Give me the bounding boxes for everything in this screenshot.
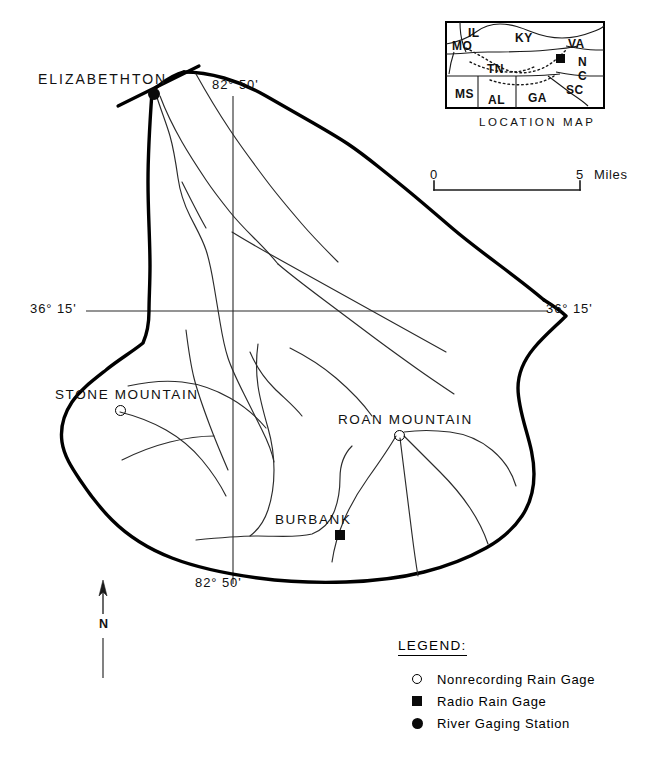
legend-item-river-gaging-station: River Gaging Station	[406, 712, 595, 734]
inset-state-label-mo: MO	[452, 40, 472, 52]
inset-state-label-ky: KY	[515, 32, 533, 44]
river-gaging-station-marker-elizabethton[interactable]	[148, 88, 160, 100]
nonrecording-rain-gage-marker-roan-mountain[interactable]	[394, 430, 405, 441]
coordinate-label-longitude-bottom: 82° 50'	[195, 576, 242, 589]
stream-roan-east-fork	[404, 436, 488, 544]
filled-square-icon	[406, 696, 428, 706]
stream-stone-mountain-lower	[122, 436, 214, 460]
stream-tributary-northeast	[278, 264, 454, 394]
nonrecording-rain-gage-marker-stone-mountain[interactable]	[115, 405, 126, 416]
legend-item-nonrecording-rain-gage: Nonrecording Rain Gage	[406, 668, 595, 690]
stream-branch-mid-east	[232, 232, 446, 352]
legend-item-label: Radio Rain Gage	[437, 694, 546, 709]
inset-title: LOCATION MAP	[479, 117, 595, 129]
coordinate-label-latitude-right: 36° 15'	[546, 302, 593, 315]
radio-rain-gage-marker-burbank[interactable]	[335, 530, 345, 540]
stream-network	[120, 74, 516, 576]
scale-bar-units-label: Miles	[594, 168, 628, 181]
legend-item-label: Nonrecording Rain Gage	[437, 672, 595, 687]
inset-state-label-il: IL	[468, 27, 480, 39]
city-label-elizabethton: ELIZABETHTON	[38, 72, 167, 86]
coordinate-label-longitude-top: 82° 50'	[212, 78, 259, 91]
place-label-stone-mountain: STONE MOUNTAIN	[55, 388, 199, 402]
inset-state-label-sc: SC	[566, 84, 584, 96]
watershed-map-page: ELIZABETHTON STONE MOUNTAIN ROAN MOUNTAI…	[0, 0, 659, 757]
place-label-burbank: BURBANK	[275, 513, 352, 527]
watershed-boundary-path	[61, 92, 566, 582]
study-area-marker-icon	[556, 54, 565, 63]
stream-feeder-upper-northeast	[196, 74, 338, 262]
watershed-boundary	[61, 72, 566, 582]
stream-roan-northeast-fork	[404, 431, 516, 487]
filled-circle-icon	[406, 718, 428, 729]
scale-bar-start-label: 0	[430, 168, 438, 181]
legend-title: LEGEND:	[398, 638, 467, 656]
inset-state-label-ga: GA	[528, 92, 547, 104]
legend: LEGEND: Nonrecording Rain Gage Radio Rai…	[398, 636, 595, 734]
north-arrow-label: N	[99, 618, 109, 631]
scale-bar	[434, 181, 580, 190]
stream-northeast-arc	[290, 348, 372, 416]
inset-state-label-nc-c: C	[578, 70, 587, 82]
inset-state-label-tn: TN	[487, 63, 504, 75]
inset-state-label-ms: MS	[455, 88, 474, 100]
stream-roan-center-fork	[400, 438, 418, 576]
legend-item-label: River Gaging Station	[437, 716, 570, 731]
stream-main-stem	[156, 94, 274, 462]
inset-state-label-nc-n: N	[578, 56, 587, 68]
inset-state-label-va: VA	[568, 38, 585, 50]
legend-item-radio-rain-gage: Radio Rain Gage	[406, 690, 595, 712]
place-label-roan-mountain: ROAN MOUNTAIN	[338, 413, 473, 427]
graticule-lines	[86, 96, 548, 584]
coordinate-label-latitude-left: 36° 15'	[30, 302, 77, 315]
stream-secondary-channel	[160, 96, 278, 264]
stream-roan-west-fork	[332, 436, 396, 562]
scale-bar-end-label: 5	[576, 168, 584, 181]
inset-state-label-al: AL	[488, 94, 505, 106]
open-circle-icon	[406, 674, 428, 684]
